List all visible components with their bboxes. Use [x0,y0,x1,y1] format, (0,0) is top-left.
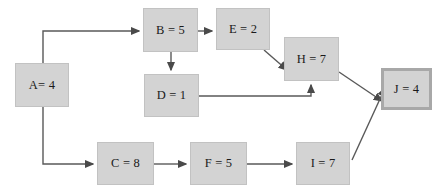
node-i[interactable]: I = 7 [296,142,350,185]
node-c[interactable]: C = 8 [97,142,154,185]
node-label-b: B = 5 [156,24,185,37]
edge-a-to-b [43,31,139,63]
activity-network-diagram: A= 4B = 5C = 8D = 1E = 2F = 5H = 7I = 7J… [0,0,448,196]
node-d[interactable]: D = 1 [144,74,199,117]
node-e[interactable]: E = 2 [216,8,270,50]
node-j[interactable]: J = 4 [381,68,432,110]
edge-h-to-j [339,72,382,101]
node-b[interactable]: B = 5 [143,8,198,52]
node-h[interactable]: H = 7 [284,37,339,81]
node-label-a: A= 4 [29,79,55,92]
node-a[interactable]: A= 4 [15,63,69,107]
edge-d-to-h [199,85,311,96]
node-label-j: J = 4 [394,83,419,96]
node-label-d: D = 1 [157,89,187,102]
node-label-e: E = 2 [229,23,257,36]
node-f[interactable]: F = 5 [190,142,247,185]
edge-a-to-c [43,107,93,164]
node-label-c: C = 8 [111,157,140,170]
node-label-f: F = 5 [205,157,233,170]
node-label-h: H = 7 [297,53,327,66]
node-label-i: I = 7 [311,157,336,170]
